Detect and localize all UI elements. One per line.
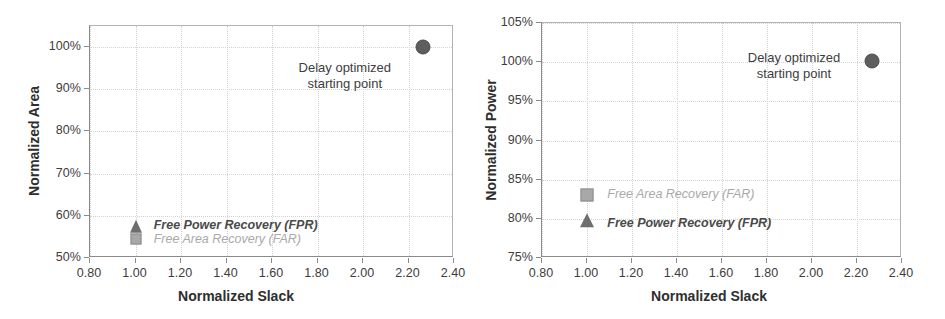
figure-root: Delay optimizedstarting pointFree Power … — [0, 0, 945, 319]
x-tick-mark — [89, 258, 90, 263]
plot-area-left: Delay optimizedstarting pointFree Power … — [89, 25, 453, 257]
x-tick-mark — [631, 258, 632, 263]
annotation-line-2: starting point — [299, 76, 392, 92]
x-tick-label: 1.20 — [168, 266, 193, 280]
x-tick-mark — [541, 258, 542, 263]
y-axis-title-left: Normalized Area — [26, 86, 42, 196]
annotation-line-2: starting point — [748, 66, 841, 82]
gridline-horizontal — [90, 216, 452, 217]
y-tick-label: 90% — [56, 81, 81, 95]
x-tick-label: 1.80 — [754, 266, 779, 280]
x-tick-mark — [135, 258, 136, 263]
x-tick-label: 1.80 — [304, 266, 329, 280]
gridline-horizontal — [90, 131, 452, 132]
y-tick-label: 80% — [508, 211, 533, 225]
plot-area-right: Delay optimizedstarting pointFree Area R… — [541, 22, 901, 257]
gridline-horizontal — [90, 47, 452, 48]
data-point-circle — [416, 40, 431, 55]
annotation-delay-optimized-starting-point: Delay optimizedstarting point — [299, 60, 392, 93]
y-tick-label: 80% — [56, 123, 81, 137]
gridline-vertical — [542, 23, 543, 256]
y-tick-mark — [84, 130, 89, 131]
x-axis-title-right: Normalized Slack — [473, 288, 945, 304]
gridline-vertical — [90, 26, 91, 256]
y-tick-mark — [536, 179, 541, 180]
chart-panel-left: Delay optimizedstarting pointFree Power … — [0, 0, 472, 319]
annotation-series-fpr: Free Power Recovery (FPR) — [154, 218, 318, 234]
data-point-circle — [864, 53, 879, 68]
data-point-triangle — [130, 220, 142, 233]
data-point-square — [581, 189, 594, 202]
gridline-horizontal — [90, 89, 452, 90]
gridline-vertical — [409, 26, 410, 256]
x-tick-label: 1.20 — [619, 266, 644, 280]
y-tick-label: 100% — [49, 39, 81, 53]
y-tick-mark — [536, 61, 541, 62]
y-tick-mark — [84, 173, 89, 174]
annotation-series-far: Free Area Recovery (FAR) — [154, 232, 301, 248]
x-tick-mark — [676, 258, 677, 263]
y-tick-label: 90% — [508, 133, 533, 147]
y-tick-mark — [536, 140, 541, 141]
x-tick-mark — [362, 258, 363, 263]
x-tick-mark — [766, 258, 767, 263]
x-tick-mark — [453, 258, 454, 263]
x-tick-label: 2.20 — [395, 266, 420, 280]
y-tick-mark — [84, 46, 89, 47]
x-tick-label: 1.40 — [213, 266, 238, 280]
y-tick-mark — [84, 215, 89, 216]
x-tick-label: 2.40 — [889, 266, 914, 280]
data-point-square — [130, 234, 141, 245]
data-point-triangle — [580, 213, 594, 227]
x-tick-mark — [408, 258, 409, 263]
x-tick-label: 1.60 — [259, 266, 284, 280]
gridline-horizontal — [542, 62, 900, 63]
y-tick-label: 85% — [508, 172, 533, 186]
annotation-line-1: Delay optimized — [299, 60, 392, 76]
x-tick-mark — [811, 258, 812, 263]
x-tick-label: 2.00 — [799, 266, 824, 280]
x-tick-mark — [586, 258, 587, 263]
y-tick-mark — [536, 22, 541, 23]
x-tick-label: 2.20 — [844, 266, 869, 280]
x-tick-mark — [180, 258, 181, 263]
x-tick-label: 1.40 — [664, 266, 689, 280]
x-tick-mark — [271, 258, 272, 263]
annotation-delay-optimized-starting-point: Delay optimizedstarting point — [748, 50, 841, 83]
y-axis-title-right: Normalized Power — [483, 79, 499, 200]
y-tick-label: 60% — [56, 208, 81, 222]
x-tick-mark — [901, 258, 902, 263]
y-tick-label: 70% — [56, 166, 81, 180]
gridline-vertical — [857, 23, 858, 256]
x-tick-mark — [856, 258, 857, 263]
chart-panel-right: Delay optimizedstarting pointFree Area R… — [473, 0, 945, 319]
x-tick-label: 2.00 — [350, 266, 375, 280]
y-tick-label: 105% — [501, 15, 533, 29]
y-tick-mark — [536, 218, 541, 219]
annotation-series-far: Free Area Recovery (FAR) — [607, 188, 754, 204]
y-tick-label: 95% — [508, 93, 533, 107]
x-tick-mark — [317, 258, 318, 263]
gridline-horizontal — [542, 101, 900, 102]
x-axis-title-left: Normalized Slack — [0, 288, 472, 304]
x-tick-mark — [721, 258, 722, 263]
x-tick-label: 0.80 — [529, 266, 554, 280]
x-tick-label: 2.40 — [441, 266, 466, 280]
y-tick-mark — [536, 100, 541, 101]
annotation-line-1: Delay optimized — [748, 50, 841, 66]
x-tick-label: 1.00 — [122, 266, 147, 280]
x-tick-label: 1.60 — [709, 266, 734, 280]
x-tick-label: 0.80 — [77, 266, 102, 280]
y-tick-label: 50% — [56, 250, 81, 264]
gridline-horizontal — [542, 23, 900, 24]
x-tick-mark — [226, 258, 227, 263]
annotation-series-fpr: Free Power Recovery (FPR) — [607, 216, 771, 232]
x-tick-label: 1.00 — [574, 266, 599, 280]
gridline-horizontal — [542, 141, 900, 142]
gridline-horizontal — [90, 174, 452, 175]
y-tick-label: 100% — [501, 54, 533, 68]
y-tick-label: 75% — [508, 250, 533, 264]
y-tick-mark — [84, 88, 89, 89]
gridline-horizontal — [542, 180, 900, 181]
